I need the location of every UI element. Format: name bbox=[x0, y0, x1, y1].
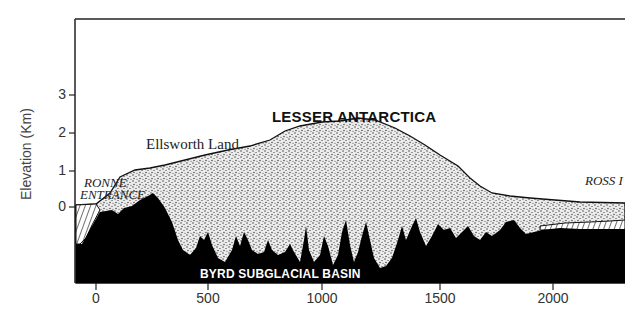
y-tick-label-1: 1 bbox=[52, 162, 66, 178]
y-tick-label-2: 2 bbox=[52, 124, 66, 140]
byrd-basin-label: BYRD SUBGLACIAL BASIN bbox=[200, 267, 361, 281]
x-tick-label-500: 500 bbox=[196, 290, 219, 306]
x-tick-label-1000: 1000 bbox=[306, 290, 337, 306]
ellsworth-land-label: Ellsworth Land bbox=[146, 136, 239, 153]
x-tick-label-1500: 1500 bbox=[424, 290, 455, 306]
y-tick-marks bbox=[69, 95, 75, 207]
y-tick-label-3: 3 bbox=[52, 86, 66, 102]
elevation-profile-figure: Elevation (Km) 3 2 1 0 0 500 1000 1500 2… bbox=[0, 0, 625, 328]
y-tick-label-0: 0 bbox=[52, 198, 66, 214]
x-tick-marks bbox=[96, 283, 553, 290]
ross-label: ROSS I bbox=[585, 174, 623, 187]
ronne-label-line2: ENTRANCE bbox=[80, 188, 145, 201]
figure-title: LESSER ANTARCTICA bbox=[272, 108, 436, 125]
y-axis-label: Elevation (Km) bbox=[18, 108, 34, 200]
x-tick-label-2000: 2000 bbox=[537, 290, 568, 306]
x-tick-label-0: 0 bbox=[92, 290, 100, 306]
